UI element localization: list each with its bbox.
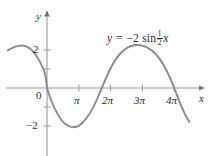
origin-label: 0 bbox=[36, 90, 42, 101]
equation-coefficient: −2 bbox=[126, 32, 139, 44]
plot-canvas bbox=[0, 0, 217, 156]
equation-lhs: y = bbox=[107, 32, 123, 44]
fraction-denominator: 2 bbox=[157, 38, 163, 47]
sine-curve bbox=[8, 45, 190, 127]
y-axis-label: y bbox=[36, 11, 41, 22]
x-axis-label: x bbox=[199, 93, 204, 104]
equation-fraction: 12 bbox=[157, 30, 163, 47]
fraction-numerator: 1 bbox=[157, 30, 163, 38]
equation-annotation: y = −2 sin12x bbox=[107, 30, 168, 47]
equation-variable: x bbox=[163, 32, 168, 44]
x-tick-label-2pi: 2π bbox=[102, 95, 113, 106]
x-tick-label-4pi: 4π bbox=[166, 95, 177, 106]
y-tick-label-neg2: −2 bbox=[26, 120, 38, 131]
x-tick-label-pi: π bbox=[74, 95, 80, 106]
y-tick-label-2: 2 bbox=[33, 44, 39, 55]
equation-function: sin bbox=[142, 32, 156, 44]
graph-figure: y x 0 2 −2 π 2π 3π 4π y = −2 sin12x bbox=[0, 0, 217, 156]
x-tick-label-3pi: 3π bbox=[134, 95, 145, 106]
